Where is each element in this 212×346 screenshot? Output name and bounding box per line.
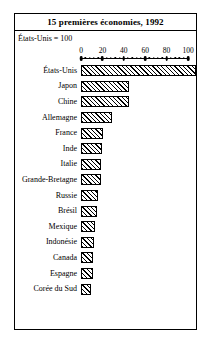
bar-track: [81, 94, 196, 110]
bar-row: Brésil: [15, 203, 196, 219]
x-axis-major-tick: [144, 56, 147, 61]
bar-row: Grande-Bretagne: [15, 172, 196, 188]
plot-area: 020406080100 États-UnisJaponChineAllemag…: [15, 46, 196, 297]
bar-row: Inde: [15, 141, 196, 157]
x-axis-tick-label: 40: [120, 46, 128, 55]
x-axis-tick-label: 20: [99, 46, 107, 55]
bar-track: [81, 79, 196, 95]
x-axis-tick-label: 60: [141, 46, 149, 55]
bar: [81, 284, 91, 295]
bar-track: [81, 250, 196, 266]
bar-category-label: Brésil: [15, 207, 81, 215]
x-axis-major-tick: [187, 56, 190, 61]
bar-track: [81, 235, 196, 251]
chart-frame: 15 premières économies, 1992 États-Unis …: [14, 13, 197, 330]
bar: [81, 237, 94, 248]
x-axis-major-tick: [101, 56, 104, 61]
bar-row: Italie: [15, 157, 196, 173]
bar-category-label: Chine: [15, 98, 81, 106]
x-axis-tick-label: 80: [163, 46, 171, 55]
bar-category-label: États-Unis: [15, 67, 81, 75]
chart-title-box: 15 premières économies, 1992: [15, 14, 196, 31]
bar-row: Russie: [15, 188, 196, 204]
x-axis-major-tick: [80, 56, 83, 61]
x-axis-tick-label: 0: [79, 46, 83, 55]
bar: [81, 206, 97, 217]
bar-category-label: France: [15, 129, 81, 137]
bar: [81, 252, 93, 263]
bar-category-label: Allemagne: [15, 114, 81, 122]
bar-row: Espagne: [15, 266, 196, 282]
bar-category-label: Mexique: [15, 223, 81, 231]
bar-category-label: Japon: [15, 82, 81, 90]
bar-row: États-Unis: [15, 63, 196, 79]
chart-subtitle-row: États-Unis = 100: [15, 31, 196, 46]
page-title: 15 premières économies, 1992: [47, 17, 163, 27]
bar-category-label: Inde: [15, 145, 81, 153]
bar: [81, 65, 196, 76]
bar-category-label: Indonésie: [15, 238, 81, 246]
bar-track: [81, 219, 196, 235]
bar: [81, 221, 95, 232]
bar-track: [81, 203, 196, 219]
x-axis-tick-label: 100: [182, 46, 193, 55]
bar-category-label: Grande-Bretagne: [15, 176, 81, 184]
bar-category-label: Italie: [15, 160, 81, 168]
bar-row: Canada: [15, 250, 196, 266]
bar-track: [81, 141, 196, 157]
x-axis-line-wrap: [81, 56, 188, 62]
bar-row: Indonésie: [15, 235, 196, 251]
bar: [81, 81, 129, 92]
bar-category-label: Canada: [15, 254, 81, 262]
bar-row: France: [15, 125, 196, 141]
bar-row: Chine: [15, 94, 196, 110]
bar: [81, 128, 103, 139]
bar-row: Japon: [15, 79, 196, 95]
bar-rows: États-UnisJaponChineAllemagneFranceIndeI…: [15, 63, 196, 297]
bar-row: Mexique: [15, 219, 196, 235]
x-axis: 020406080100: [81, 46, 188, 62]
bar-track: [81, 281, 196, 297]
bar-track: [81, 125, 196, 141]
bar-category-label: Espagne: [15, 270, 81, 278]
bar-category-label: Corée du Sud: [15, 285, 81, 293]
bar: [81, 159, 101, 170]
bar-track: [81, 172, 196, 188]
bar-track: [81, 157, 196, 173]
bar: [81, 96, 129, 107]
bar: [81, 112, 112, 123]
bar-category-label: Russie: [15, 192, 81, 200]
bar-track: [81, 63, 196, 79]
x-axis-major-tick: [165, 56, 168, 61]
x-axis-tick-labels: 020406080100: [81, 46, 188, 56]
bar-track: [81, 188, 196, 204]
x-axis-major-tick: [123, 56, 126, 61]
bar: [81, 190, 98, 201]
bar: [81, 174, 101, 185]
bar: [81, 268, 93, 279]
bar-row: Corée du Sud: [15, 281, 196, 297]
bar-track: [81, 266, 196, 282]
bar-row: Allemagne: [15, 110, 196, 126]
bar-track: [81, 110, 196, 126]
chart-subtitle: États-Unis = 100: [18, 34, 72, 43]
figure-page: 15 premières économies, 1992 États-Unis …: [0, 0, 212, 346]
bar: [81, 143, 102, 154]
